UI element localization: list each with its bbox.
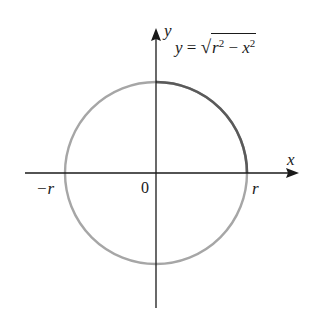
pos-r-tick-label: r bbox=[252, 180, 259, 197]
radical-sign-icon: √ bbox=[201, 36, 211, 57]
eq-x-exp: 2 bbox=[250, 37, 256, 49]
eq-r: r bbox=[212, 38, 219, 57]
x-axis-label: x bbox=[287, 151, 295, 168]
eq-r-exp: 2 bbox=[219, 37, 225, 49]
y-axis-label: y bbox=[164, 22, 172, 39]
neg-r-tick-label: −r bbox=[36, 180, 54, 197]
eq-minus: − bbox=[228, 38, 238, 57]
equation-label: y = √r2 − x2 bbox=[175, 33, 256, 58]
eq-equals: = bbox=[187, 38, 197, 57]
quarter-arc-highlight bbox=[156, 82, 247, 173]
origin-label: 0 bbox=[141, 180, 149, 196]
radicand: r2 − x2 bbox=[211, 33, 256, 57]
eq-lhs: y bbox=[175, 38, 183, 57]
circle-diagram bbox=[0, 0, 324, 326]
eq-x: x bbox=[242, 38, 250, 57]
